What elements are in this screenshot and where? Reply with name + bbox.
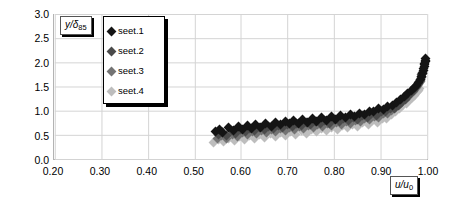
legend-label: seet.1 — [118, 26, 144, 36]
legend-entry: seet.2 — [108, 41, 164, 61]
legend-marker-diamond-icon — [107, 66, 117, 76]
y-tick-label: 1.5 — [15, 82, 49, 92]
x-tick-label: 0.50 — [171, 165, 217, 177]
x-axis-title: u/u0 — [390, 176, 418, 195]
x-tick-label: 0.20 — [30, 165, 76, 177]
legend: seet.1seet.2seet.3seet.4 — [103, 16, 165, 104]
legend-label: seet.3 — [118, 66, 144, 76]
legend-marker-diamond-icon — [107, 46, 117, 56]
legend-marker-diamond-icon — [107, 86, 117, 96]
scatter-chart-figure: 0.00.51.01.52.02.53.0 0.200.300.400.500.… — [0, 0, 452, 211]
x-tick-label: 0.70 — [264, 165, 310, 177]
legend-label: seet.2 — [118, 46, 144, 56]
y-axis-title: y/δ85 — [60, 16, 92, 35]
y-tick-label: 0.0 — [15, 155, 49, 165]
y-tick-label: 2.5 — [15, 33, 49, 43]
legend-entry: seet.3 — [108, 61, 164, 81]
legend-entry: seet.4 — [108, 81, 164, 101]
y-tick-label: 3.0 — [15, 9, 49, 19]
y-tick-label: 2.0 — [15, 58, 49, 68]
x-tick-label: 0.80 — [311, 165, 357, 177]
legend-label: seet.4 — [118, 86, 144, 96]
legend-marker-diamond-icon — [107, 26, 117, 36]
x-tick-label: 0.40 — [124, 165, 170, 177]
x-axis-tick-labels: 0.200.300.400.500.600.700.800.901.00 — [53, 165, 428, 179]
x-tick-label: 0.30 — [77, 165, 123, 177]
y-axis-tick-labels: 0.00.51.01.52.02.53.0 — [12, 14, 49, 160]
y-tick-label: 0.5 — [15, 131, 49, 141]
legend-entry: seet.1 — [108, 21, 164, 41]
y-tick-label: 1.0 — [15, 106, 49, 116]
x-tick-label: 0.60 — [218, 165, 264, 177]
